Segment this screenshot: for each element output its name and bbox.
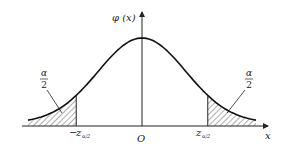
left-cutoff-label: − z α/2 <box>69 127 90 139</box>
right-tail-label: α 2 <box>245 68 253 90</box>
x-axis-label: x <box>265 130 271 141</box>
right-tail-leader-line <box>227 90 245 113</box>
right-tail-shaded-region <box>208 95 256 126</box>
svg-text:α: α <box>41 68 47 78</box>
left-tail-label: α 2 <box>40 68 48 90</box>
svg-text:α: α <box>246 68 252 78</box>
svg-text:z: z <box>195 127 202 138</box>
svg-text:2: 2 <box>41 80 47 90</box>
svg-text:z: z <box>75 127 82 138</box>
svg-text:2: 2 <box>246 80 252 90</box>
svg-text:α/2: α/2 <box>82 133 90 139</box>
origin-label: O <box>137 133 145 144</box>
left-tail-leader-line <box>47 90 62 113</box>
svg-text:α/2: α/2 <box>202 133 210 139</box>
right-cutoff-label: z α/2 <box>195 127 210 139</box>
left-tail-shaded-region <box>28 95 76 126</box>
normal-distribution-diagram: φ (x) x O − z α/2 z α/2 α 2 α 2 <box>0 0 285 153</box>
y-axis-label: φ (x) <box>112 12 136 23</box>
